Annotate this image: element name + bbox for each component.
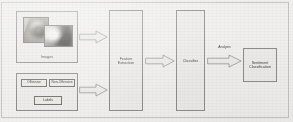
- arrow-feature-extraction-to-classifier: [145, 54, 175, 68]
- labels-chip-label: Labels: [35, 99, 61, 103]
- stage-sentiment-classification: Sentiment Classification: [243, 48, 277, 82]
- arrow-images-to-feature-extraction: [79, 30, 108, 44]
- stage-classifier: Classifier: [176, 10, 205, 111]
- class-chip-offensive-label: Offensive: [22, 81, 46, 85]
- images-group-label: Images: [17, 55, 77, 59]
- images-input-group: Images: [16, 11, 78, 63]
- stage-sentiment-classification-label: Sentiment Classification: [244, 61, 276, 70]
- arrow-classifier-to-sentiment-classification: [207, 54, 242, 68]
- stage-feature-extraction-label: Feature Extraction: [110, 56, 142, 65]
- stage-classifier-label: Classifier: [177, 58, 204, 62]
- labels-chip: Labels: [34, 96, 62, 105]
- stage-feature-extraction: Feature Extraction: [109, 10, 143, 111]
- edge-label-analysis: Analysis: [207, 46, 242, 50]
- photo-thumbnail-right-icon: [44, 25, 73, 47]
- class-chip-offensive: Offensive: [21, 79, 47, 87]
- figure-canvas: Images Offensive Non-Offensive Labels Fe…: [0, 0, 293, 122]
- class-chip-non-offensive: Non-Offensive: [49, 79, 75, 87]
- arrow-labels-to-feature-extraction: [79, 83, 108, 97]
- class-chip-non-offensive-label: Non-Offensive: [50, 81, 74, 85]
- labels-input-group: Offensive Non-Offensive Labels: [16, 73, 78, 111]
